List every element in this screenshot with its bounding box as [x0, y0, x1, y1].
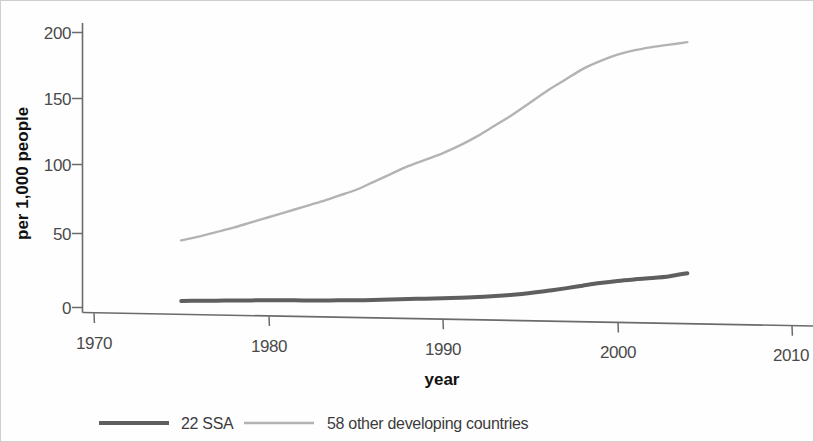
legend-label-22-ssa: 22 SSA: [181, 415, 234, 432]
chart-legend: 22 SSA 58 other developing countries: [99, 415, 529, 432]
x-tick-label-2000: 2000: [600, 343, 636, 362]
x-tick-label-1970: 1970: [76, 334, 112, 353]
x-tick-label-1990: 1990: [425, 340, 461, 359]
y-tick-label-200: 200: [44, 24, 71, 43]
x-axis-title: year: [425, 370, 460, 389]
chart-page: per 1,000 people 200 150 100 50 0 1970 1…: [0, 0, 814, 442]
x-tick-label-2010: 2010: [773, 346, 809, 365]
x-axis-line: [83, 313, 814, 327]
y-axis-title: per 1,000 people: [13, 107, 32, 240]
y-tick-label-100: 100: [44, 156, 71, 175]
legend-label-58-other-developing-countries: 58 other developing countries: [327, 415, 529, 432]
series-line-58-other-developing-countries: [181, 42, 687, 240]
line-chart: per 1,000 people 200 150 100 50 0 1970 1…: [1, 1, 814, 442]
series-group: [181, 42, 687, 301]
x-tick-label-1980: 1980: [251, 337, 287, 356]
series-line-22-ssa: [181, 273, 687, 301]
y-tick-label-150: 150: [44, 90, 71, 109]
y-tick-label-50: 50: [53, 225, 71, 244]
y-tick-label-0: 0: [62, 299, 71, 318]
